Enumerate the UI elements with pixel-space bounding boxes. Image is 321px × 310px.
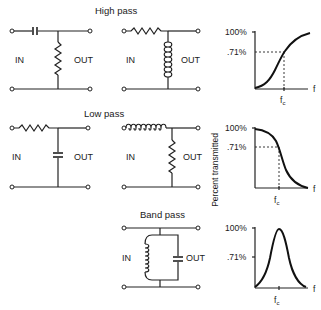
inductor-icon: [126, 124, 166, 130]
terminal-in-bottom: [122, 285, 126, 289]
tick-71: .71%: [227, 252, 247, 262]
circuit-high-pass-rl: IN OUT: [122, 28, 201, 91]
terminal-in-top: [122, 226, 126, 230]
label-out: OUT: [183, 152, 203, 162]
terminal-in-bottom: [122, 185, 126, 189]
terminal-out-bottom: [86, 185, 90, 189]
tick-100: 100%: [225, 223, 247, 233]
circuit-low-pass-lr: IN OUT: [122, 124, 203, 189]
axis-f: f: [313, 284, 316, 294]
terminal-out-bottom: [196, 87, 200, 91]
terminal-in-top: [10, 29, 14, 33]
chart-low-pass: 100% .71% fc f: [225, 123, 316, 206]
high-pass-curve: [255, 33, 310, 88]
circuit-high-pass-rc: IN OUT: [10, 27, 94, 91]
band-pass-curve: [255, 229, 306, 287]
terminal-in-top: [122, 29, 126, 33]
terminal-out-top: [86, 126, 90, 130]
filter-diagram: High pass IN OUT IN OUT Low pass: [0, 0, 321, 310]
chart-high-pass: 100% .71% fc f: [225, 27, 316, 106]
capacitor-icon: [53, 153, 63, 157]
inductor-icon: [145, 244, 149, 272]
low-pass-curve: [255, 129, 308, 188]
terminal-out-top: [196, 226, 200, 230]
label-in: IN: [12, 152, 21, 162]
tick-fc: fc: [274, 195, 279, 206]
terminal-out-bottom: [196, 285, 200, 289]
terminal-out-bottom: [196, 185, 200, 189]
label-out: OUT: [74, 152, 94, 162]
circuit-low-pass-rc: IN OUT: [10, 125, 94, 189]
label-out: OUT: [186, 253, 206, 263]
capacitor-icon: [173, 257, 183, 261]
resistor-icon: [55, 42, 61, 75]
label-in: IN: [122, 253, 131, 263]
capacitor-icon: [33, 27, 37, 35]
label-out: OUT: [181, 55, 201, 65]
terminal-in-bottom: [10, 87, 14, 91]
tick-fc: fc: [274, 295, 279, 306]
label-in: IN: [126, 55, 135, 65]
y-axis-label: Percent transmitted: [210, 133, 220, 207]
tick-100: 100%: [225, 27, 247, 37]
resistor-icon: [14, 125, 58, 131]
title-band-pass: Band pass: [140, 209, 185, 220]
resistor-icon: [126, 28, 168, 34]
terminal-in-bottom: [122, 87, 126, 91]
title-low-pass: Low pass: [84, 108, 124, 119]
circuit-band-pass-lc: IN OUT: [122, 226, 206, 289]
axis-f: f: [313, 84, 316, 94]
terminal-in-top: [10, 126, 14, 130]
tick-100: 100%: [225, 123, 247, 133]
label-in: IN: [15, 55, 24, 65]
terminal-out-top: [196, 126, 200, 130]
tick-fc: fc: [280, 95, 285, 106]
terminal-out-top: [196, 29, 200, 33]
chart-band-pass: 100% .71% fc f: [225, 223, 316, 306]
terminal-in-bottom: [10, 185, 14, 189]
tick-71: .71%: [227, 142, 247, 152]
axis-f: f: [313, 184, 316, 194]
label-out: OUT: [74, 55, 94, 65]
terminal-out-top: [88, 29, 92, 33]
inductor-icon: [164, 42, 172, 77]
terminal-out-bottom: [88, 87, 92, 91]
resistor-icon: [169, 140, 175, 173]
title-high-pass: High pass: [95, 5, 137, 16]
label-in: IN: [126, 152, 135, 162]
tick-71: .71%: [227, 47, 247, 57]
